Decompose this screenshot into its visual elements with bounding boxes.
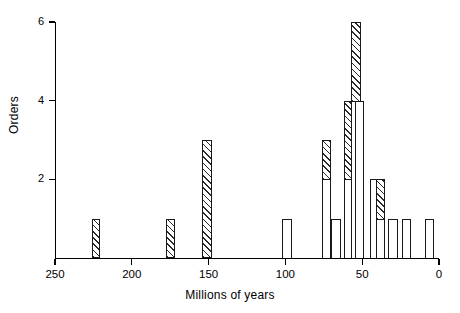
bar-segment-hatched: [92, 219, 100, 258]
histogram-bar: [425, 219, 434, 258]
y-axis-line: [55, 22, 56, 259]
histogram-bar: [402, 219, 411, 258]
bar-segment-open: [355, 101, 364, 258]
bar-segment-hatched: [166, 219, 175, 258]
x-tick-label-250: 250: [35, 268, 75, 280]
y-axis-label: Orders: [7, 80, 21, 150]
y-tick-label-2: 2: [20, 173, 44, 184]
x-tick-0: [438, 259, 439, 265]
histogram-bar: [355, 101, 364, 258]
bar-segment-open: [425, 219, 434, 258]
bar-segment-hatched: [202, 140, 211, 258]
histogram-bar: [92, 219, 100, 258]
bar-segment-open: [376, 219, 385, 258]
histogram-bar: [166, 219, 175, 258]
x-tick-label-200: 200: [112, 268, 152, 280]
x-tick-label-150: 150: [189, 268, 229, 280]
histogram-bar: [202, 140, 211, 258]
bar-segment-hatched: [376, 179, 385, 218]
y-tick-2: [49, 179, 55, 180]
y-tick-label-6: 6: [20, 16, 44, 27]
histogram-bar: [376, 179, 385, 258]
bar-segment-hatched: [322, 140, 331, 179]
x-axis-line: [55, 258, 439, 259]
histogram-figure: 246 250200150100500 Millions of years Or…: [0, 0, 460, 313]
x-tick-100: [285, 259, 286, 265]
histogram-bar: [331, 219, 340, 258]
x-tick-label-100: 100: [265, 268, 305, 280]
bar-segment-open: [388, 219, 397, 258]
bar-segment-open: [282, 219, 291, 258]
x-tick-150: [208, 259, 209, 265]
histogram-bar: [322, 140, 331, 258]
x-tick-label-50: 50: [342, 268, 382, 280]
y-tick-label-4: 4: [20, 95, 44, 106]
bar-segment-open: [402, 219, 411, 258]
x-tick-label-0: 0: [419, 268, 459, 280]
histogram-bar: [282, 219, 291, 258]
y-tick-4: [49, 100, 55, 101]
bar-segment-hatched: [351, 22, 360, 101]
x-tick-250: [54, 259, 55, 265]
bar-segment-open: [322, 179, 331, 258]
x-tick-50: [362, 259, 363, 265]
x-tick-200: [131, 259, 132, 265]
x-axis-label: Millions of years: [0, 288, 460, 302]
y-tick-6: [49, 21, 55, 22]
bar-segment-open: [331, 219, 340, 258]
histogram-bar: [388, 219, 397, 258]
